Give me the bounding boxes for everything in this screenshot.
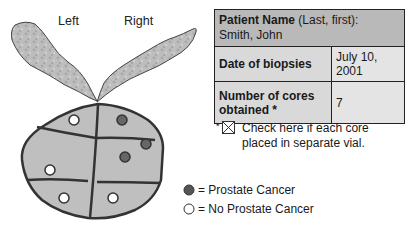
filled-circle-icon: [183, 184, 195, 196]
note-text: Check here if each core placed in separa…: [242, 121, 405, 151]
date-label: Date of biopsies: [215, 47, 332, 82]
cores-value: 7: [332, 82, 405, 124]
legend-cancer: = Prostate Cancer: [183, 180, 314, 199]
legend: = Prostate Cancer = No Prostate Cancer: [183, 180, 314, 218]
legend-cancer-label: = Prostate Cancer: [198, 183, 295, 197]
patient-name-label: Patient Name: [219, 13, 295, 27]
core-no-cancer: [69, 115, 79, 125]
date-value: July 10, 2001: [332, 47, 405, 82]
patient-info-table: Patient Name (Last, first): Smith, John …: [214, 9, 405, 124]
patient-name-value: Smith, John: [219, 28, 282, 42]
cores-label: Number of cores obtained *: [215, 82, 332, 124]
legend-no-cancer: = No Prostate Cancer: [183, 199, 314, 218]
empty-circle-icon: [183, 203, 195, 215]
patient-name-hint: (Last, first):: [295, 13, 358, 27]
core-cancer: [120, 152, 130, 162]
right-seminal-vesicle: [97, 28, 196, 102]
checked-checkbox-icon[interactable]: [222, 121, 235, 134]
left-label: Left: [58, 14, 79, 28]
patient-name-cell: Patient Name (Last, first): Smith, John: [215, 10, 405, 47]
core-no-cancer: [45, 165, 55, 175]
core-cancer: [141, 139, 151, 149]
prostate-diagram: Left Right: [0, 0, 200, 230]
prostate-illustration: [0, 0, 200, 230]
core-no-cancer: [108, 193, 118, 203]
right-label: Right: [124, 14, 153, 28]
legend-no-cancer-label: = No Prostate Cancer: [198, 202, 314, 216]
core-no-cancer: [59, 193, 69, 203]
core-cancer: [117, 115, 127, 125]
asterisk: *: [216, 119, 220, 134]
left-seminal-vesicle: [11, 22, 97, 101]
